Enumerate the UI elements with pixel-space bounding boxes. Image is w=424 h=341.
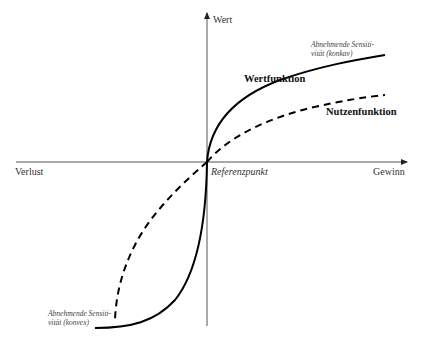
concave-annotation-line2: vität (konkav) (311, 49, 374, 58)
nutzenfunktion-curve-loss (115, 162, 207, 320)
concave-annotation-line1: Abnehmende Sensiti- (311, 40, 374, 49)
convex-annotation: Abnehmende Sensiti- vität (konvex) (48, 309, 111, 328)
concave-annotation: Abnehmende Sensiti- vität (konkav) (311, 40, 374, 59)
x-axis-left-label: Verlust (15, 167, 43, 177)
convex-annotation-line1: Abnehmende Sensiti- (48, 309, 111, 318)
nutzenfunktion-label: Nutzenfunktion (326, 107, 397, 118)
wertfunktion-label: Wertfunktion (244, 74, 305, 85)
y-axis-label: Wert (213, 15, 232, 25)
convex-annotation-line2: vität (konvex) (48, 318, 111, 327)
reference-point-label: Referenzpunkt (211, 167, 268, 177)
x-axis-right-label: Gewinn (373, 167, 405, 177)
wertfunktion-curve-loss (95, 162, 207, 328)
